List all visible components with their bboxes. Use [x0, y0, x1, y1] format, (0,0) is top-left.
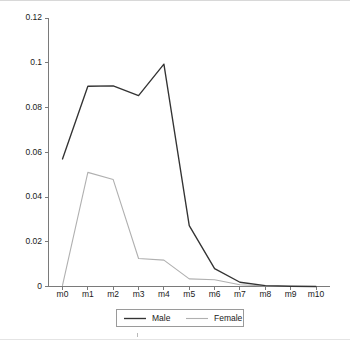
stray-artifact-mark [137, 333, 138, 337]
x-tick-label: m0 [57, 289, 69, 299]
series-line-male [63, 64, 317, 286]
x-tick-label: m9 [285, 289, 297, 299]
x-tick-label: m3 [133, 289, 145, 299]
x-tick-label: m2 [107, 289, 119, 299]
series-line-female [63, 172, 317, 286]
y-tick-label: 0.06 [25, 147, 42, 157]
legend-label-female: Female [214, 313, 243, 323]
x-tick-label: m5 [183, 289, 195, 299]
y-tick-label: 0.02 [25, 236, 42, 246]
x-tick-label: m10 [308, 289, 325, 299]
legend-label-male: Male [152, 313, 171, 323]
chart-figure: 00.020.040.060.080.10.12 m0m1m2m3m4m5m6m… [0, 0, 350, 340]
y-tick-label: 0.08 [25, 102, 42, 112]
y-tick-label: 0.04 [25, 191, 42, 201]
y-tick-label: 0 [37, 281, 42, 291]
line-chart-svg: 00.020.040.060.080.10.12 m0m1m2m3m4m5m6m… [0, 0, 350, 340]
y-tick-label: 0.12 [25, 12, 42, 22]
x-tick-label: m7 [234, 289, 246, 299]
x-tick-label: m4 [158, 289, 170, 299]
y-axis-tick-labels: 00.020.040.060.080.10.12 [25, 12, 42, 291]
x-tick-label: m1 [82, 289, 94, 299]
chart-legend: Male Female [117, 310, 244, 327]
x-axis-tick-labels: m0m1m2m3m4m5m6m7m8m9m10 [57, 289, 325, 299]
y-tick-label: 0.1 [30, 57, 42, 67]
x-tick-label: m8 [259, 289, 271, 299]
x-tick-label: m6 [209, 289, 221, 299]
y-axis-tick-marks [45, 18, 49, 287]
